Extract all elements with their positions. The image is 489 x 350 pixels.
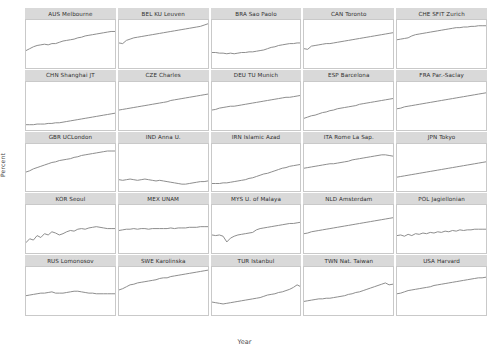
facet-panel: TUR Istanbul0020: [211, 255, 302, 316]
facet-strip-label: FRA Par.-Saclay: [396, 70, 487, 81]
facet-panel: CHN Shanghai JT204060: [25, 70, 116, 131]
facet-panel: CAN Toronto: [303, 8, 394, 69]
facet-strip-label: IRN Islamic Azad: [211, 132, 302, 143]
facet-strip-label: BEL KU Leuven: [118, 8, 209, 19]
facet-strip-label: ESP Barcelona: [303, 70, 394, 81]
series-line-12: [212, 144, 301, 192]
facet-plot-area: [211, 81, 302, 131]
series-line-6: [119, 82, 208, 130]
series-line-20: [26, 267, 115, 315]
facet-strip-label: CHE SFIT Zurich: [396, 8, 487, 19]
facet-plot-area: [396, 81, 487, 131]
facet-plot-area: 204060: [25, 204, 116, 254]
facet-plot-area: 0020: [303, 266, 394, 316]
series-line-22: [212, 267, 301, 315]
facet-plot-area: 0020: [211, 266, 302, 316]
facet-grid: AUS Melbourne204060BEL KU LeuvenBRA Sao …: [25, 8, 487, 316]
series-line-9: [397, 82, 486, 130]
facet-panel: ITA Rome La Sap.: [303, 132, 394, 193]
facet-strip-label: SWE Karolinska: [118, 255, 209, 266]
series-line-4: [397, 20, 486, 68]
facet-panel: FRA Par.-Saclay: [396, 70, 487, 131]
facet-panel: SWE Karolinska0020: [118, 255, 209, 316]
facet-plot-area: 0020: [396, 266, 487, 316]
series-line-23: [304, 267, 393, 315]
facet-plot-area: [211, 143, 302, 193]
series-line-3: [304, 20, 393, 68]
facet-plot-area: 0020: [118, 266, 209, 316]
facet-panel: POL Jagiellonian: [396, 193, 487, 254]
facet-strip-label: BRA Sao Paolo: [211, 8, 302, 19]
facet-strip-label: POL Jagiellonian: [396, 193, 487, 204]
facet-plot-area: [396, 204, 487, 254]
facet-strip-label: IND Anna U.: [118, 132, 209, 143]
facet-plot-area: [303, 204, 394, 254]
facet-panel: AUS Melbourne204060: [25, 8, 116, 69]
facet-strip-label: MYS U. of Malaya: [211, 193, 302, 204]
facet-plot-area: [118, 19, 209, 69]
series-line-0: [26, 20, 115, 68]
facet-panel: BEL KU Leuven: [118, 8, 209, 69]
facet-strip-label: JPN Tokyo: [396, 132, 487, 143]
facet-strip-label: KOR Seoul: [25, 193, 116, 204]
facet-panel: ESP Barcelona: [303, 70, 394, 131]
series-line-17: [212, 205, 301, 253]
series-line-24: [397, 267, 486, 315]
series-line-16: [119, 205, 208, 253]
facet-strip-label: RUS Lomonosov: [25, 255, 116, 266]
facet-plot-area: [118, 204, 209, 254]
facet-panel: CHE SFIT Zurich: [396, 8, 487, 69]
facet-plot-area: [303, 81, 394, 131]
series-line-14: [397, 144, 486, 192]
facet-strip-label: DEU TU Munich: [211, 70, 302, 81]
facet-panel: USA Harvard0020: [396, 255, 487, 316]
series-line-18: [304, 205, 393, 253]
facet-strip-label: GBR UCLondon: [25, 132, 116, 143]
facet-panel: RUS Lomonosov2040600020: [25, 255, 116, 316]
y-axis-label: Percent: [0, 153, 6, 177]
facet-panel: DEU TU Munich: [211, 70, 302, 131]
series-line-1: [119, 20, 208, 68]
facet-panel: TWN Nat. Taiwan0020: [303, 255, 394, 316]
facet-plot-area: [211, 19, 302, 69]
facet-plot-area: [303, 19, 394, 69]
series-line-21: [119, 267, 208, 315]
facet-strip-label: CAN Toronto: [303, 8, 394, 19]
facet-strip-label: USA Harvard: [396, 255, 487, 266]
facet-plot-area: [118, 143, 209, 193]
series-line-13: [304, 144, 393, 192]
facet-panel: MEX UNAM: [118, 193, 209, 254]
facet-panel: BRA Sao Paolo: [211, 8, 302, 69]
facet-panel: MYS U. of Malaya: [211, 193, 302, 254]
facet-panel: JPN Tokyo: [396, 132, 487, 193]
facet-plot-area: 204060: [25, 81, 116, 131]
facet-strip-label: NLD Amsterdam: [303, 193, 394, 204]
facet-panel: CZE Charles: [118, 70, 209, 131]
series-line-19: [397, 205, 486, 253]
series-line-7: [212, 82, 301, 130]
series-line-5: [26, 82, 115, 130]
series-line-11: [119, 144, 208, 192]
facet-plot-area: [396, 19, 487, 69]
facet-strip-label: CZE Charles: [118, 70, 209, 81]
facet-panel: IND Anna U.: [118, 132, 209, 193]
facet-panel: IRN Islamic Azad: [211, 132, 302, 193]
facet-plot-area: [211, 204, 302, 254]
facet-strip-label: ITA Rome La Sap.: [303, 132, 394, 143]
facet-strip-label: MEX UNAM: [118, 193, 209, 204]
x-axis-label: Year: [0, 338, 489, 346]
series-line-8: [304, 82, 393, 130]
facet-panel: KOR Seoul204060: [25, 193, 116, 254]
facet-plot-area: 2040600020: [25, 266, 116, 316]
series-line-2: [212, 20, 301, 68]
series-line-10: [26, 144, 115, 192]
series-line-15: [26, 205, 115, 253]
facet-panel: GBR UCLondon204060: [25, 132, 116, 193]
facet-plot-area: [303, 143, 394, 193]
facet-strip-label: CHN Shanghai JT: [25, 70, 116, 81]
facet-plot-area: 204060: [25, 19, 116, 69]
chart-root: Percent Year AUS Melbourne204060BEL KU L…: [0, 0, 489, 350]
facet-plot-area: 204060: [25, 143, 116, 193]
facet-strip-label: TWN Nat. Taiwan: [303, 255, 394, 266]
facet-panel: NLD Amsterdam: [303, 193, 394, 254]
